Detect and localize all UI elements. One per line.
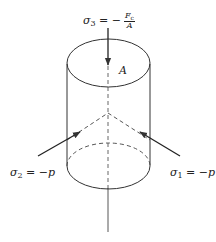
sigma1-arrow — [140, 132, 180, 156]
sigma1-label: σ1 = −p — [170, 167, 215, 180]
sigma3-symbol: σ — [83, 14, 91, 27]
sigma3-label: σ3 = −FcA — [83, 12, 135, 30]
sigma3-fraction: FcA — [124, 12, 135, 30]
sigma2-symbol: σ — [10, 166, 18, 179]
sigma2-arrow — [38, 132, 80, 156]
sigma2-label: σ2 = −p — [10, 167, 55, 180]
fraction-numerator-subscript: c — [131, 14, 134, 21]
cylinder-bottom-front-arc — [67, 166, 150, 189]
cylinder-bottom-back-arc — [67, 143, 150, 166]
cylinder-stress-diagram — [0, 0, 216, 242]
sigma2-equals: = −p — [23, 166, 55, 179]
failure-plane-right — [108, 113, 150, 140]
area-label: A — [119, 65, 127, 76]
sigma1-equals: = −p — [183, 166, 215, 179]
sigma1-symbol: σ — [170, 166, 178, 179]
fraction-denominator: A — [124, 22, 135, 30]
sigma3-equals: = − — [96, 14, 121, 27]
